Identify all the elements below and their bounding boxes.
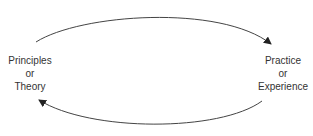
arrow-top-theory-to-practice <box>36 17 271 44</box>
arrow-bottom-practice-to-theory <box>39 100 262 124</box>
node-label-line: Experience <box>253 80 313 93</box>
node-label-line: or <box>0 67 60 80</box>
node-label-line: Principles <box>0 54 60 67</box>
practice-experience-node: Practice or Experience <box>253 54 313 93</box>
node-label-line: or <box>253 67 313 80</box>
principles-theory-node: Principles or Theory <box>0 54 60 93</box>
node-label-line: Practice <box>253 54 313 67</box>
node-label-line: Theory <box>0 80 60 93</box>
